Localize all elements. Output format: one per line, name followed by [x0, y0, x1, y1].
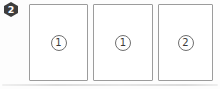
surface-shadow [2, 84, 218, 87]
figure-three-cards: 2 1 1 2 [0, 0, 220, 89]
exercise-number-label: 2 [8, 5, 15, 15]
exercise-number-badge: 2 [4, 2, 18, 17]
card-3: 2 [158, 4, 213, 81]
circled-number: 1 [115, 35, 131, 51]
circled-number: 1 [51, 35, 67, 51]
card-2: 1 [93, 4, 153, 81]
circled-number: 2 [178, 35, 194, 51]
card-1: 1 [29, 4, 88, 81]
